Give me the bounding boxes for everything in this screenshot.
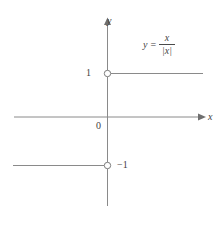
- open-endpoint-lower: [104, 162, 110, 168]
- x-axis-label: x: [208, 112, 212, 122]
- y-tick-label-1: 1: [86, 68, 91, 78]
- equation-equals-sign: =: [150, 40, 156, 50]
- function-equation-annotation: y = x |x|: [143, 33, 175, 56]
- equation-lhs: y: [143, 40, 147, 50]
- origin-label: 0: [96, 121, 101, 131]
- y-tick-label-neg-1: −1: [117, 160, 128, 170]
- y-axis-label: y: [107, 16, 111, 26]
- fraction-numerator: x: [162, 33, 172, 44]
- fraction-denominator: |x|: [159, 45, 175, 56]
- signum-function-graph: y x 1 0 −1 y = x |x|: [0, 0, 222, 225]
- equation-fraction: x |x|: [159, 33, 175, 56]
- plot-canvas: [0, 0, 222, 225]
- x-axis-arrowhead: [198, 113, 206, 120]
- open-endpoint-upper: [104, 70, 110, 76]
